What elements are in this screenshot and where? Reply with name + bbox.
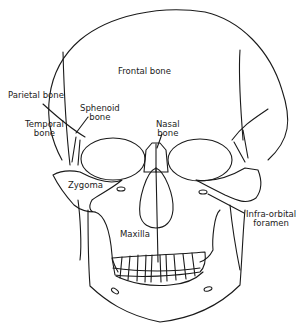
label-text: Frontal bone xyxy=(118,67,171,76)
left-orbit xyxy=(81,138,145,180)
label-infraorbital-foramen: Infra-orbital foramen xyxy=(246,210,296,228)
left-sphenoid-lines xyxy=(72,137,80,165)
label-text: Maxilla xyxy=(120,230,150,239)
left-maxilla xyxy=(95,212,118,272)
skull-diagram: Frontal bone Parietal bone Sphenoid bone… xyxy=(0,0,300,327)
right-mental-foramen xyxy=(204,286,213,292)
upper-teeth xyxy=(112,252,205,276)
infraorbital-pointer xyxy=(208,194,244,213)
label-maxilla: Maxilla xyxy=(120,230,150,239)
right-maxilla xyxy=(200,210,220,262)
lower-teeth-bottom xyxy=(116,272,203,286)
label-nasal-bone: Nasal bone xyxy=(156,120,180,138)
label-text: bone xyxy=(25,129,64,138)
label-zygoma: Zygoma xyxy=(68,181,103,190)
left-zygoma xyxy=(53,171,122,212)
left-mental-foramen xyxy=(111,287,120,295)
label-sphenoid-bone: Sphenoid bone xyxy=(80,104,120,122)
right-coronal-suture xyxy=(239,50,243,140)
label-frontal-bone: Frontal bone xyxy=(118,67,171,76)
label-text: Parietal bone xyxy=(8,91,64,100)
right-orbit xyxy=(168,139,232,181)
lower-teeth xyxy=(113,268,200,271)
label-text: Zygoma xyxy=(68,181,103,190)
right-squamosal-suture xyxy=(232,109,268,140)
nasal-septum xyxy=(156,168,158,262)
right-ramus xyxy=(230,205,240,270)
label-text: bone xyxy=(156,129,180,138)
label-text: bone xyxy=(80,113,120,122)
label-parietal-bone: Parietal bone xyxy=(8,91,64,100)
left-infraorbital-foramen xyxy=(117,187,125,191)
skull-drawing xyxy=(0,0,300,327)
label-temporal-bone: Temporal bone xyxy=(25,120,64,138)
left-coronal-suture xyxy=(63,52,70,165)
right-zygoma xyxy=(196,168,261,201)
right-infraorbital-foramen xyxy=(199,190,207,194)
label-text: foramen xyxy=(246,219,296,228)
